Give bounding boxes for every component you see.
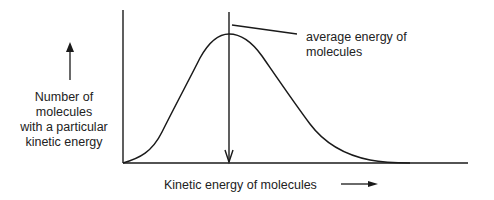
x-axis-label: Kinetic energy of molecules [164, 178, 317, 193]
annotation-pointer [232, 25, 297, 34]
y-axis-label: Number of molecules with a particular ki… [6, 90, 122, 150]
y-label-line: Number of [6, 90, 122, 105]
arrow-right-icon [368, 181, 378, 187]
annotation-line: average energy of [306, 30, 486, 45]
y-label-line: kinetic energy [6, 135, 122, 150]
annotation-line: molecules [306, 45, 486, 60]
y-label-line: molecules [6, 105, 122, 120]
y-label-line: with a particular [6, 120, 122, 135]
arrow-up-icon [66, 42, 74, 52]
average-energy-annotation: average energy of molecules [306, 30, 486, 60]
